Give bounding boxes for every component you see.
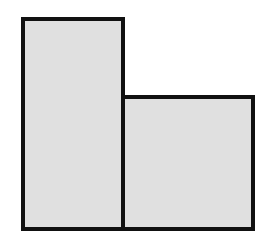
tall-rectangle: [21, 17, 125, 231]
short-rectangle: [121, 95, 255, 231]
diagram-canvas: [0, 0, 268, 237]
